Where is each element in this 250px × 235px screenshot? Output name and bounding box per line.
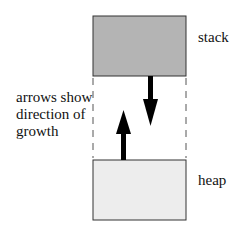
heap-growth-up-arrow-icon xyxy=(116,110,131,160)
heap-region xyxy=(93,160,186,220)
stack-region xyxy=(93,16,186,76)
stack-growth-down-arrow-icon xyxy=(143,76,158,126)
annotation-line-3: growth xyxy=(16,123,59,140)
annotation-line-2: direction of xyxy=(16,106,86,123)
heap-label: heap xyxy=(198,172,226,189)
stack-label: stack xyxy=(198,29,229,46)
annotation-line-1: arrows show xyxy=(16,89,92,106)
